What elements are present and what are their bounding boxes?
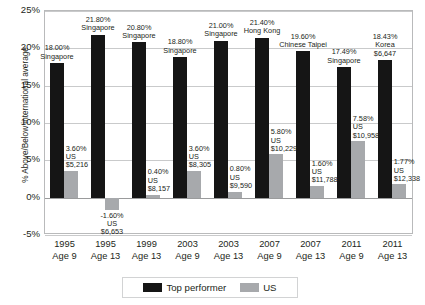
us-data-label: 1.60%US$11,788 — [312, 160, 360, 185]
label-line: $12,338 — [394, 175, 425, 183]
us-data-label: 0.40%US$8,157 — [148, 168, 196, 193]
legend-entry: Top performer — [143, 283, 226, 293]
label-line: $5,216 — [66, 161, 114, 169]
us-data-label: 3.60%US$5,216 — [66, 145, 114, 170]
bar-us — [64, 171, 78, 198]
bar-top-performer — [296, 51, 310, 197]
top-performer-data-label: 18.00%Singapore — [25, 44, 89, 61]
bar-top-performer — [50, 63, 64, 197]
top-performer-data-label: 19.60%Chinese Taipei — [271, 33, 335, 50]
gridline — [45, 198, 412, 199]
label-line: $6,653 — [82, 228, 142, 236]
legend-swatch — [240, 283, 259, 292]
gridline — [45, 11, 412, 12]
us-data-label: 5.80%US$10,229 — [271, 128, 319, 153]
bar-us — [228, 192, 242, 198]
us-data-label: 1.77%US$12,338 — [394, 158, 425, 183]
bar-us — [105, 198, 119, 210]
label-line: $9,590 — [230, 182, 278, 190]
bar-top-performer — [132, 42, 146, 197]
us-data-label: 0.80%US$9,590 — [230, 165, 278, 190]
label-line: Singapore — [148, 47, 212, 55]
bar-top-performer — [91, 35, 105, 198]
top-performer-data-label: 18.80%Singapore — [148, 38, 212, 55]
label-line: $8,157 — [148, 185, 196, 193]
legend-swatch — [143, 283, 162, 292]
bar-us — [392, 184, 406, 197]
top-performer-data-label: 18.43%Korea$6,647 — [353, 33, 417, 58]
label-line: $10,958 — [353, 132, 401, 140]
label-line: $6,647 — [353, 50, 417, 58]
x-tick-label: 2011Age 13 — [366, 239, 419, 262]
label-line: $11,788 — [312, 176, 360, 184]
legend-label: US — [263, 283, 276, 293]
label-line: $10,229 — [271, 145, 319, 153]
legend-label: Top performer — [166, 283, 226, 293]
plot-area: 18.00%Singapore3.60%US$5,21621.80%Singap… — [44, 10, 413, 234]
y-tick-label: 5% — [0, 154, 40, 164]
x-tick-age: Age 13 — [366, 251, 419, 263]
us-data-label: -1.60%US$6,653 — [82, 212, 142, 237]
y-tick-label: 25% — [0, 5, 40, 15]
legend-entry: US — [240, 283, 276, 293]
label-line: Singapore — [25, 53, 89, 61]
bar-us — [310, 186, 324, 198]
x-tick-year: 2011 — [366, 239, 419, 251]
bar-top-performer — [214, 41, 228, 198]
chart-legend: Top performerUS — [122, 277, 298, 298]
y-tick-label: -5% — [0, 229, 40, 239]
y-tick-label: 0% — [0, 192, 40, 202]
us-data-label: 7.58%US$10,958 — [353, 115, 401, 140]
y-tick-label: 15% — [0, 80, 40, 90]
bar-us — [146, 195, 160, 198]
y-tick-label: 10% — [0, 117, 40, 127]
